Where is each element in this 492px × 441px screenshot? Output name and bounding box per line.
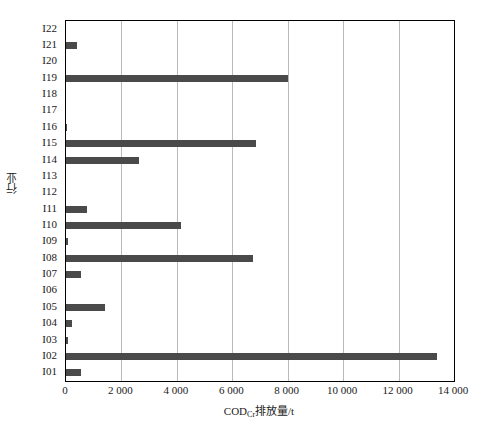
- y-tick-label: I09: [28, 235, 61, 246]
- bar-I01: [66, 369, 81, 376]
- y-tick-label: I05: [28, 301, 61, 312]
- bar-row: [66, 185, 454, 201]
- bar-row: [66, 332, 454, 348]
- bar-I04: [66, 320, 72, 327]
- bar-row: [66, 54, 454, 70]
- bar-I07: [66, 271, 81, 278]
- y-tick-label: I11: [28, 203, 61, 214]
- bar-row: [66, 152, 454, 168]
- bar-row: [66, 315, 454, 331]
- x-tick-label: 0: [62, 384, 68, 396]
- bar-series: [66, 21, 454, 381]
- bar-row: [66, 348, 454, 364]
- bar-I21: [66, 42, 77, 49]
- bar-I08: [66, 255, 253, 262]
- bar-row: [66, 365, 454, 381]
- bar-row: [66, 86, 454, 102]
- bar-I14: [66, 157, 139, 164]
- y-axis-title: 行业: [6, 172, 28, 194]
- bar-I16: [66, 124, 67, 131]
- x-axis-title-tail: 排放量/t: [255, 405, 294, 417]
- x-tick-label: 10 000: [327, 384, 357, 396]
- bar-row: [66, 201, 454, 217]
- y-tick-label: I12: [28, 186, 61, 197]
- x-axis-title-base: COD: [224, 405, 247, 417]
- bar-row: [66, 283, 454, 299]
- bar-I03: [66, 337, 68, 344]
- bar-row: [66, 234, 454, 250]
- bar-row: [66, 250, 454, 266]
- y-tick-label: I13: [28, 170, 61, 181]
- bar-I05: [66, 304, 105, 311]
- y-tick-label: I15: [28, 137, 61, 148]
- y-tick-label: I03: [28, 334, 61, 345]
- bar-row: [66, 299, 454, 315]
- y-tick-label: I02: [28, 350, 61, 361]
- bar-row: [66, 103, 454, 119]
- y-tick-label: I19: [28, 72, 61, 83]
- bar-I10: [66, 222, 181, 229]
- bar-I15: [66, 140, 256, 147]
- y-tick-label: I08: [28, 252, 61, 263]
- bar-I09: [66, 238, 68, 245]
- bar-row: [66, 168, 454, 184]
- bar-row: [66, 70, 454, 86]
- bar-row: [66, 136, 454, 152]
- bar-row: [66, 266, 454, 282]
- bar-row: [66, 37, 454, 53]
- y-tick-label: I17: [28, 104, 61, 115]
- bar-I19: [66, 75, 288, 82]
- y-tick-label: I20: [28, 55, 61, 66]
- y-tick-label: I04: [28, 317, 61, 328]
- x-tick-label: 12 000: [382, 384, 412, 396]
- x-tick-label: 14 000: [438, 384, 468, 396]
- y-tick-label: I06: [28, 284, 61, 295]
- x-tick-label: 6 000: [219, 384, 244, 396]
- x-tick-label: 8 000: [274, 384, 299, 396]
- plot-area: [65, 20, 455, 382]
- y-tick-label: I16: [28, 121, 61, 132]
- x-axis-tick-labels: 02 0004 0006 0008 00010 00012 00014 000: [65, 384, 453, 400]
- bar-chart-figure: 行业 I01I02I03I04I05I06I07I08I09I10I11I12I…: [0, 0, 492, 441]
- y-tick-label: I22: [28, 23, 61, 34]
- y-tick-label: I07: [28, 268, 61, 279]
- bar-row: [66, 217, 454, 233]
- y-tick-label: I14: [28, 154, 61, 165]
- y-tick-label: I01: [28, 366, 61, 377]
- bar-I11: [66, 206, 87, 213]
- bar-I02: [66, 353, 437, 360]
- y-axis-tick-labels: I01I02I03I04I05I06I07I08I09I10I11I12I13I…: [28, 20, 61, 380]
- y-tick-label: I21: [28, 39, 61, 50]
- x-axis-title: CODCr排放量/t: [65, 404, 453, 420]
- x-axis-title-subscript: Cr: [247, 410, 255, 419]
- y-tick-label: I10: [28, 219, 61, 230]
- x-tick-label: 4 000: [163, 384, 188, 396]
- bar-row: [66, 119, 454, 135]
- x-tick-label: 2 000: [108, 384, 133, 396]
- y-tick-label: I18: [28, 88, 61, 99]
- bar-row: [66, 21, 454, 37]
